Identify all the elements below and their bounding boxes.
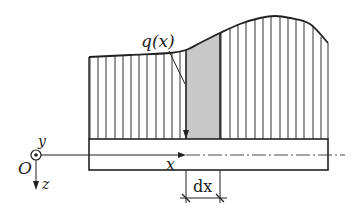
x-axis-label: x (166, 155, 175, 174)
x-axis-arrow-icon (178, 152, 186, 158)
z-axis-label: z (41, 176, 50, 192)
beam-load-diagram: q(x) x y O z dx (0, 0, 358, 212)
q-leader-line (169, 51, 185, 84)
element-width-label: dx (193, 177, 212, 196)
shaded-element-dx (186, 33, 220, 139)
load-label: q(x) (141, 31, 175, 51)
origin-label: O (18, 158, 32, 178)
origin-dot (34, 153, 38, 157)
z-axis-arrow-icon (33, 181, 39, 190)
y-axis-label: y (37, 133, 47, 149)
